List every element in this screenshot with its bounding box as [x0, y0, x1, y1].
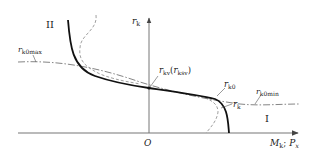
rk0-leader	[217, 88, 225, 96]
rk-label: rk	[233, 99, 241, 110]
diagram-canvas: II I rk O Mk;Px rk0max rkv(rksv) rk0 rk0…	[0, 0, 320, 154]
rk0-label: rk0	[224, 79, 236, 90]
x-axis-label: Mk;Px	[269, 138, 299, 150]
region-I-label: I	[265, 113, 269, 124]
origin-label: O	[144, 138, 152, 148]
rkv-leader	[150, 76, 158, 87]
dashed-curve-right	[200, 96, 218, 133]
rk0max-leader	[33, 55, 36, 62]
rk0max-label: rk0max	[18, 45, 43, 55]
region-II-label: II	[46, 19, 54, 30]
rkv-label: rkv(rksv)	[159, 65, 191, 76]
y-axis-label: rk	[132, 16, 140, 28]
rk0min-label: rk0min	[256, 87, 279, 97]
